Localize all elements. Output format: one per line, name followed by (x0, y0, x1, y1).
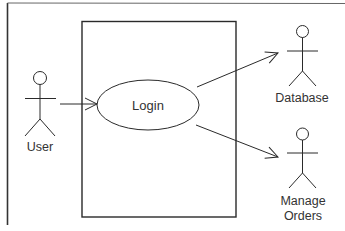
actor-head-icon (297, 128, 309, 140)
use-case-label: Login (132, 98, 164, 113)
actor-label-line-2: Orders (284, 209, 322, 223)
use-case-login[interactable]: Login (97, 80, 199, 130)
use-case-diagram: Login User Database Manage (0, 0, 345, 231)
actor-label: Database (275, 91, 329, 105)
actor-database[interactable]: Database (275, 26, 329, 106)
actor-user[interactable]: User (25, 72, 56, 155)
actor-label: User (27, 140, 53, 154)
actor-head-icon (34, 72, 47, 85)
actor-head-icon (297, 26, 309, 38)
association-login-manage-orders[interactable] (196, 125, 278, 157)
association-login-database[interactable] (197, 53, 278, 87)
actor-manage-orders[interactable]: Manage Orders (280, 128, 325, 223)
actor-label-line-1: Manage (280, 194, 325, 208)
